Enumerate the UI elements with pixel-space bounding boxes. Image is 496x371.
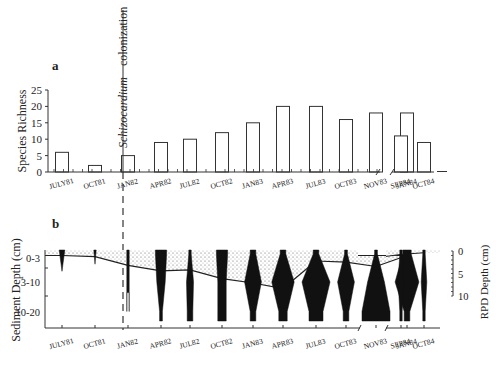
panel-a-x-tick-label: JUL83 [304, 177, 326, 191]
panel-a-x-tick-label: OCT82 [209, 176, 233, 191]
panel-a-y-label: Species Richness [15, 89, 29, 172]
panel-a-y-tick-label: 0 [37, 166, 43, 178]
panel-b-x-tick-label: NOV83 [363, 336, 389, 351]
rpd-axis-tick-label: 5 [458, 269, 463, 280]
kite-oct82 [216, 250, 227, 321]
bar-apr83 [277, 106, 290, 172]
panel-a-x-tick-label: JAN82 [116, 176, 139, 190]
panel-a-bars [56, 106, 431, 172]
panel-b-x-tick-label: JULY81 [48, 336, 75, 351]
kite-apr82 [155, 250, 166, 321]
panel-b-label: b [52, 216, 59, 231]
panel-b-x-tick-label: JAN83 [241, 336, 264, 350]
bar-oct83 [340, 120, 353, 172]
bar-nov83 [370, 113, 383, 172]
panel-a-y-tick-label: 10 [31, 133, 43, 145]
panel-b-x-tick-label: APR82 [149, 336, 173, 350]
panel-a-x-tick-label: OCT81 [82, 176, 106, 191]
rpd-axis-tick-label: 10 [458, 291, 469, 302]
panel-a-y-tick-label: 20 [31, 100, 43, 112]
bar-jul83 [310, 106, 323, 172]
panel-a-x-tick-label: JAN83 [241, 176, 264, 190]
panel-a-x-axis: JULY81OCT81JAN82APR82JUL82OCT82JAN83APR8… [48, 169, 447, 191]
bar-oct81 [89, 165, 102, 172]
panel-a-y-tick-label: 15 [31, 117, 43, 129]
panel-b-x-tick-label: OCT83 [333, 336, 357, 351]
panel-b-x-tick-label: JAN82 [116, 336, 139, 350]
bar-apr82 [155, 142, 168, 172]
panel-b-x-tick-label: APR83 [271, 336, 295, 350]
panel-a-label: a [52, 58, 59, 73]
kite-july81 [59, 250, 65, 271]
panel-a-y-tick-label: 25 [31, 84, 43, 96]
bar-oct84 [418, 142, 431, 172]
figure: a b 0510152025 JULY81OCT81JAN82APR82JUL8… [0, 0, 496, 371]
panel-a-y-axis: 0510152025 [31, 84, 48, 178]
kite-jan82 [127, 250, 129, 312]
panel-b-x-axis: JULY81OCT81JAN82APR82JUL82OCT82JAN83APR8… [45, 325, 440, 351]
colonization-word: colonization [116, 7, 130, 66]
bar-sep84 [395, 136, 408, 172]
panel-a-x-tick-label: OCT83 [333, 176, 357, 191]
bar-july81 [56, 152, 69, 172]
bar-oct82 [216, 133, 229, 172]
panel-a-x-tick-label: APR82 [149, 176, 173, 190]
panel-a-x-tick-label: JUL82 [178, 177, 200, 191]
rpd-axis-tick-label: 0 [458, 246, 463, 257]
panel-b-x-tick-label: JUL82 [178, 337, 200, 351]
panel-b-x-tick-label: OCT82 [209, 336, 233, 351]
panel-b-x-tick-label: OCT81 [82, 336, 106, 351]
panel-a-y-tick-label: 5 [37, 150, 43, 162]
colonization-species: Schizocardium [116, 77, 130, 148]
kite-oct81 [94, 250, 96, 264]
panel-b-y-label: Sediment Depth (cm) [9, 238, 23, 341]
panel-b-y-tick-label: 0-3 [26, 253, 40, 264]
bar-jul82 [184, 139, 197, 172]
panel-b-rpd-label: RPD Depth (cm) [478, 244, 491, 319]
bar-jan83 [247, 123, 260, 172]
panel-a-x-tick-label: NOV83 [363, 176, 389, 191]
panel-b-y-tick-label: 3-10 [21, 277, 40, 288]
kite-oct84 [421, 250, 427, 321]
colonization-annotation: Schizocardium colonization [116, 7, 130, 148]
panel-a-x-tick-label: APR83 [271, 176, 295, 190]
panel-b-rpd-axis: 0510 [451, 246, 469, 302]
panel-a-x-tick-label: JULY81 [48, 176, 75, 191]
panel-b-x-tick-label: JUL83 [304, 337, 326, 351]
